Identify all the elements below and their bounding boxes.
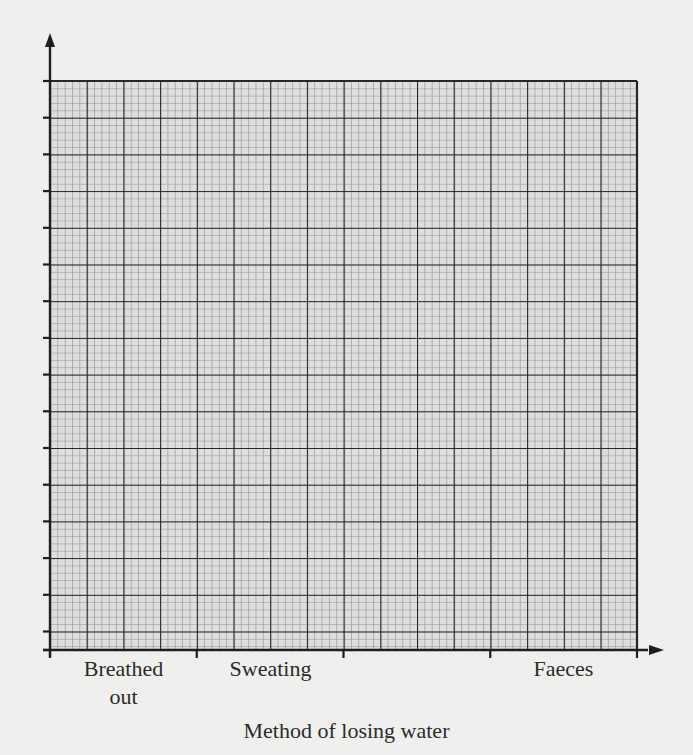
category-label-line1: Breathed [50,655,197,683]
graph-paper-chart [0,0,693,755]
x-axis-title: Method of losing water [0,717,693,745]
y-axis-arrow-icon [45,33,55,47]
category-label-line1: Sweating [197,655,344,683]
category-label-line1: Faeces [490,655,637,683]
category-label-breathed-out: Breathed out [50,655,197,711]
category-label-sweating: Sweating [197,655,344,683]
category-label-line2: out [50,683,197,711]
category-label-faeces: Faeces [490,655,637,683]
x-axis-arrow-icon [649,645,664,655]
plot-area-grid [50,81,637,650]
